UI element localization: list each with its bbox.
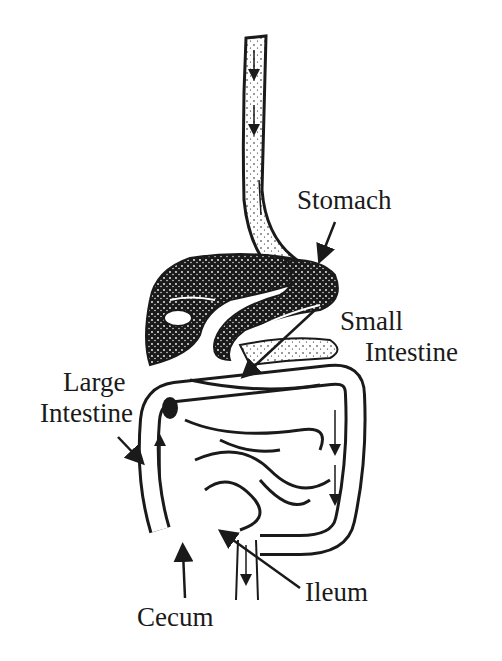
label-small-intestine-line2: Intestine [365,338,458,366]
label-stomach: Stomach [297,186,392,214]
esophagus [243,36,312,285]
cecum-pointer [183,552,185,598]
small-intestine [185,380,330,530]
label-large-intestine-line2: Intestine [40,399,133,427]
label-cecum: Cecum [137,603,213,631]
large-intestine-pointer [118,437,138,458]
label-large-intestine-line1: Large [63,368,125,396]
label-small-intestine-line1: Small [340,307,403,335]
label-ileum: Ileum [305,578,368,606]
digestive-diagram: Stomach Small Intestine Large Intestine … [0,0,502,661]
stomach-pointer [322,222,335,255]
large-intestine [149,375,356,545]
pancreas [240,338,338,365]
digestive-system-illustration [0,0,502,661]
